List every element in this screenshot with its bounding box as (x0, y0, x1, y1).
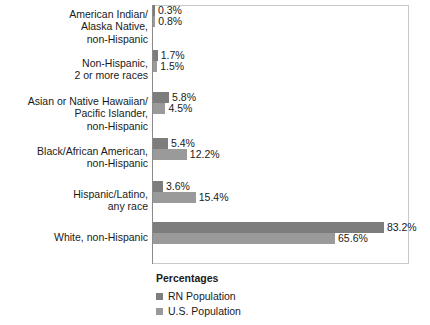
category-label: Black/African American, non-Hispanic (0, 145, 148, 170)
bar-chart-figure: American Indian/ Alaska Native, non-Hisp… (0, 0, 430, 325)
legend-title: Percentages (156, 272, 348, 285)
bar-group: 83.2% (153, 222, 417, 233)
bar (153, 103, 165, 114)
bar-group: 15.4% (153, 192, 229, 203)
bar (153, 149, 187, 160)
row-bars: 3.6%15.4% (153, 181, 229, 220)
bar (153, 181, 163, 192)
legend-color-swatch (156, 293, 163, 300)
row-bars: 1.7%1.5% (153, 50, 185, 89)
bar-value-label: 3.6% (163, 181, 190, 192)
chart-row: American Indian/ Alaska Native, non-Hisp… (0, 5, 430, 44)
bar-value-label: 1.5% (157, 61, 184, 72)
category-label: White, non-Hispanic (0, 231, 148, 243)
category-label: Asian or Native Hawaiian/ Pacific Island… (0, 95, 148, 132)
chart-row: Non-Hispanic, 2 or more races1.7%1.5% (0, 50, 430, 89)
legend-item-label: U.S. Population (168, 305, 241, 318)
row-bars: 5.4%12.2% (153, 138, 220, 177)
bar-group: 65.6% (153, 233, 417, 244)
bar-value-label: 12.2% (187, 149, 220, 160)
chart-row: Hispanic/Latino, any race3.6%15.4% (0, 181, 430, 220)
chart-row: Asian or Native Hawaiian/ Pacific Island… (0, 92, 430, 131)
bar-group: 0.8% (153, 16, 182, 27)
category-label: American Indian/ Alaska Native, non-Hisp… (0, 8, 148, 45)
bar-group: 12.2% (153, 149, 220, 160)
legend-item-label: RN Population (168, 290, 236, 303)
row-bars: 83.2%65.6% (153, 222, 417, 261)
bar-value-label: 65.6% (335, 233, 368, 244)
chart-row: Black/African American, non-Hispanic5.4%… (0, 138, 430, 177)
legend-item[interactable]: RN Population (156, 289, 348, 304)
bar-group: 1.5% (153, 61, 185, 72)
bar (153, 233, 335, 244)
bar-group: 4.5% (153, 103, 196, 114)
bar (153, 138, 168, 149)
category-label: Non-Hispanic, 2 or more races (0, 57, 148, 82)
chart-legend: Percentages RN PopulationU.S. Population (148, 272, 348, 319)
chart-row: White, non-Hispanic83.2%65.6% (0, 222, 430, 261)
category-label: Hispanic/Latino, any race (0, 188, 148, 213)
bar-value-label: 4.5% (165, 103, 192, 114)
bar-value-label: 83.2% (384, 222, 417, 233)
bar-value-label: 15.4% (196, 192, 229, 203)
legend-color-swatch (156, 308, 163, 315)
legend-items: RN PopulationU.S. Population (148, 289, 348, 319)
bar (153, 192, 196, 203)
row-bars: 5.8%4.5% (153, 92, 196, 131)
bar (153, 92, 169, 103)
bar-value-label: 0.8% (155, 16, 182, 27)
row-bars: 0.3%0.8% (153, 5, 182, 44)
legend-item[interactable]: U.S. Population (156, 304, 348, 319)
